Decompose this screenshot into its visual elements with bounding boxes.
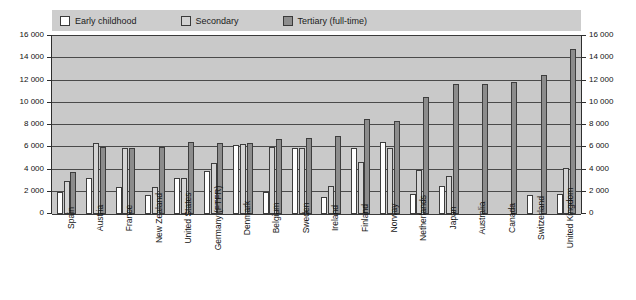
bar [380,142,386,214]
x-axis-label: Sweden [302,203,311,234]
bar-group [258,36,287,214]
x-axis-label: United States [184,192,193,243]
legend-swatch-tertiary [283,16,293,26]
plot-area [52,35,581,215]
x-axis-label-cell: Denmark [228,216,257,300]
x-axis-label-cell: Spain [52,216,81,300]
bar-groups [52,36,581,214]
x-axis-label: Austria [96,205,105,231]
bar [86,178,92,214]
y-tick-left [47,102,51,103]
y-tick-left [47,146,51,147]
y-tick-left [47,124,51,125]
y-tick-label-right: 0 [589,209,593,217]
x-axis-label-cell: Canada [493,216,522,300]
bar [233,145,239,214]
y-tick-label-right: 16 000 [589,31,613,39]
y-tick-right [582,146,586,147]
x-axis-label-cell: Japan [434,216,463,300]
bar [394,121,400,214]
bar [292,148,298,214]
bar-group [111,36,140,214]
y-tick-right [582,57,586,58]
legend-item-tertiary: Tertiary (full-time) [283,16,368,26]
y-tick-label-right: 6 000 [589,142,609,150]
x-axis-label: Japan [449,206,458,229]
bar [453,84,459,214]
bar-group [228,36,257,214]
y-tick-label-left: 14 000 [20,53,44,61]
legend-label-secondary: Secondary [196,16,239,26]
x-axis-label-cell: Austria [81,216,110,300]
y-tick-label-right: 14 000 [589,53,613,61]
x-axis-label: Germany (FTFR) [214,186,223,251]
x-axis-label-cell: New Zealand [140,216,169,300]
bar-group [463,36,492,214]
x-axis-label-cell: Switzerland [522,216,551,300]
y-tick-label-left: 2 000 [24,187,44,195]
y-axis-left [51,35,52,214]
y-tick-label-left: 4 000 [24,165,44,173]
y-tick-right [582,124,586,125]
bar-group [317,36,346,214]
x-axis-label: France [125,205,134,231]
bar [145,195,151,214]
y-tick-left [47,57,51,58]
legend-item-secondary: Secondary [181,16,239,26]
y-tick-label-left: 10 000 [20,98,44,106]
legend-item-early-childhood: Early childhood [60,16,137,26]
y-tick-right [582,213,586,214]
y-tick-label-left: 12 000 [20,76,44,84]
bar [263,192,269,214]
x-axis-label: Switzerland [537,196,546,240]
chart-figure: Early childhood Secondary Tertiary (full… [0,0,636,300]
x-axis-label-cell: United Kingdom [552,216,581,300]
x-axis-label-cell: France [111,216,140,300]
bar [335,136,341,214]
x-axis-label-cell: Sweden [287,216,316,300]
bar-group [375,36,404,214]
bar-group [81,36,110,214]
legend-label-tertiary: Tertiary (full-time) [298,16,368,26]
bar [351,148,357,214]
x-axis-label-cell: Australia [463,216,492,300]
bar-group [493,36,522,214]
x-axis-label: Denmark [243,201,252,235]
y-tick-left [47,80,51,81]
bar [557,194,563,214]
y-tick-label-right: 2 000 [589,187,609,195]
chart-legend: Early childhood Secondary Tertiary (full… [52,10,581,31]
y-tick-label-left: 16 000 [20,31,44,39]
bar [527,195,533,214]
y-tick-label-right: 8 000 [589,120,609,128]
bar [439,186,445,214]
x-axis-label: Canada [508,203,517,233]
x-axis-label: Australia [478,201,487,234]
legend-swatch-secondary [181,16,191,26]
y-tick-right [582,169,586,170]
x-axis-label: Finland [361,204,370,232]
bar-group [140,36,169,214]
legend-label-early-childhood: Early childhood [75,16,137,26]
y-tick-right [582,35,586,36]
y-tick-left [47,213,51,214]
bar [174,178,180,214]
bar [364,119,370,214]
x-axis-label-cell: United States [170,216,199,300]
bar [321,197,327,214]
y-tick-label-left: 6 000 [24,142,44,150]
bar [410,194,416,214]
bar-group [287,36,316,214]
bar [204,171,210,214]
y-tick-label-right: 4 000 [589,165,609,173]
x-axis-label: Norway [390,204,399,233]
y-tick-left [47,35,51,36]
y-tick-left [47,191,51,192]
x-axis-label: Netherlands [419,195,428,241]
y-tick-right [582,80,586,81]
bar-group [405,36,434,214]
legend-swatch-early-childhood [60,16,70,26]
bar [511,82,517,214]
x-axis-label: Belgium [272,203,281,234]
y-tick-right [582,102,586,103]
